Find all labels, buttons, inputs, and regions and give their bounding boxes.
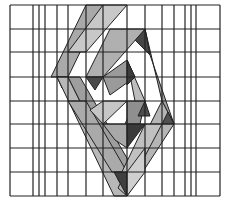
geometric-illusion-figure xyxy=(0,0,228,204)
